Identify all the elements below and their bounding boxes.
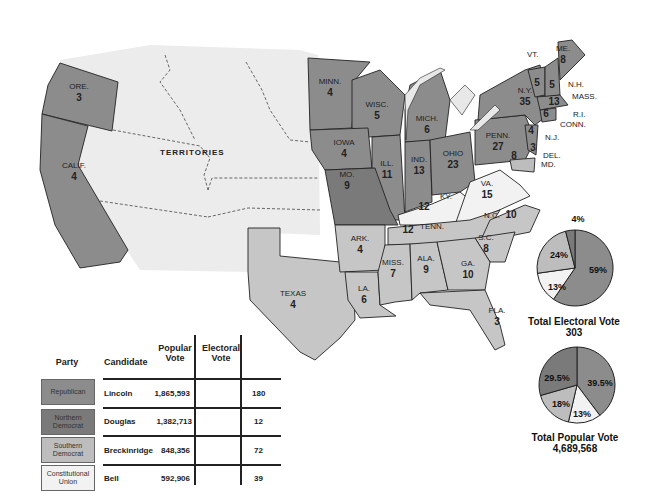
divider <box>103 435 281 437</box>
divider <box>103 464 281 466</box>
popular-vote: 592,906 <box>152 474 190 483</box>
divider <box>194 335 196 485</box>
header-electoral-vote: Electoral Vote <box>200 343 242 363</box>
pie-label: 24% <box>550 250 568 260</box>
state-label-nj: 4 <box>528 124 534 137</box>
state-label-mich: MICH.6 <box>416 114 439 136</box>
state-label-nc: 10 <box>505 208 516 221</box>
state-abbr-del: DEL. <box>543 151 561 160</box>
pie-label: 39.5% <box>587 378 613 388</box>
state-abbr-ky: KY. <box>440 192 452 201</box>
candidate-name: Bell <box>104 474 119 483</box>
popular-vote: 848,356 <box>152 446 190 455</box>
state-label-calif: CALIF.4 <box>62 161 86 183</box>
state-label-la: LA.6 <box>358 284 370 306</box>
divider <box>103 378 281 380</box>
electoral-vote: 12 <box>254 417 263 426</box>
state-label-sc: S.C.8 <box>478 233 494 255</box>
swatch-northern-democrat: Northern Democrat <box>41 409 95 435</box>
state-label-tenn: 12 <box>402 223 413 236</box>
territories-label: TERRITORIES <box>160 148 225 157</box>
swatch-southern-democrat: Southern Democrat <box>41 437 95 463</box>
state-label-nh: 5 <box>549 78 555 91</box>
candidate-name: Lincoln <box>104 389 132 398</box>
state-label-mo: MO.9 <box>339 170 354 192</box>
state-label-ore: ORE.3 <box>69 82 89 104</box>
popular-pie-title: Total Popular Vote4,689,568 <box>510 432 640 454</box>
state-label-iowa: IOWA4 <box>333 138 354 160</box>
electoral-vote: 72 <box>254 446 263 455</box>
divider <box>240 335 242 485</box>
electoral-pie-title: Total Electoral Vote303 <box>509 316 639 338</box>
swatch-republican: Republican <box>41 379 95 405</box>
state-label-md: 8 <box>511 149 517 162</box>
state-abbr-vt: VT. <box>527 50 539 59</box>
state-label-ark: ARK.4 <box>351 234 370 256</box>
header-party: Party <box>40 357 94 367</box>
candidate-name: Douglas <box>104 417 136 426</box>
pie-label: 13% <box>548 282 566 292</box>
state-abbr-tenn: TENN. <box>420 222 444 231</box>
state-label-ind: IND.13 <box>411 155 427 177</box>
state-abbr-nj: N.J. <box>545 133 559 142</box>
header-popular-vote: Popular Vote <box>154 343 196 363</box>
electoral-vote: 39 <box>254 474 263 483</box>
state-abbr-nc: N.C. <box>484 211 500 220</box>
state-label-vt: 5 <box>534 76 540 89</box>
state-label-minn: MINN.4 <box>319 77 342 99</box>
popular-vote: 1,865,593 <box>152 389 190 398</box>
state-label-ala: ALA.9 <box>417 254 434 276</box>
state-label-fla: FLA.3 <box>489 306 506 328</box>
state-label-ill: ILL.11 <box>380 159 393 181</box>
state-abbr-md: MD. <box>541 160 556 169</box>
state-label-ga: GA.10 <box>461 259 475 281</box>
state-abbr-nh: N.H. <box>568 80 584 89</box>
pie-label: 59% <box>589 265 607 275</box>
pie-label: 18% <box>552 399 570 409</box>
state-label-texas: TEXAS4 <box>280 289 306 311</box>
popular-vote: 1,382,713 <box>152 417 192 426</box>
pie-label: 29.5% <box>544 373 570 383</box>
state-label-ohio: OHIO23 <box>443 149 463 171</box>
state-label-mass: 13 <box>548 95 559 108</box>
results-table: Party Candidate Popular Vote Electoral V… <box>40 333 260 483</box>
divider <box>103 407 281 409</box>
candidate-name: Breckinridge <box>104 446 153 455</box>
state-label-miss: MISS.7 <box>382 258 404 280</box>
electoral-vote: 180 <box>252 389 265 398</box>
swatch-constitutional-union: Constitutional Union <box>41 465 95 491</box>
state-label-me: ME.8 <box>556 44 570 66</box>
state-abbr-ri: R.I. <box>573 110 585 119</box>
state-label-penn: PENN.27 <box>486 131 510 153</box>
state-label-conn: 6 <box>543 107 549 120</box>
pie-label: 4% <box>571 214 584 224</box>
pie-label: 13% <box>573 409 591 419</box>
state-label-va: VA.15 <box>481 179 493 201</box>
state-abbr-mass: MASS. <box>572 92 597 101</box>
state-label-ky: 12 <box>418 200 429 213</box>
state-label-del: 3 <box>530 141 536 154</box>
state-abbr-conn: CONN. <box>560 120 586 129</box>
state-label-ny: N.Y.35 <box>518 86 533 108</box>
state-label-wisc: WISC.5 <box>365 100 388 122</box>
